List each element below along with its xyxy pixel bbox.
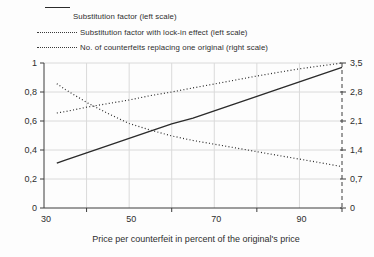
right-axis-tick-label: 0,7 [350, 174, 363, 184]
axes [40, 63, 346, 212]
left-axis-tick-label: 0 [32, 203, 37, 213]
left-axis-tick-label: 0,6 [24, 116, 37, 126]
x-axis-tick-label: 50 [126, 214, 136, 224]
axis-labels: 10,80,60,40,203,52,82,11,40,7030507090Pr… [24, 58, 362, 244]
chart: Substitution factor (left scale) Substit… [0, 0, 374, 257]
left-axis-tick-label: 0,4 [24, 145, 37, 155]
gridlines [44, 63, 342, 208]
left-axis-tick-label: 0,8 [24, 87, 37, 97]
right-axis-tick-label: 1,4 [350, 145, 363, 155]
x-axis-tick-label: 30 [41, 214, 51, 224]
x-axis-title: Price per counterfeit in percent of the … [92, 234, 299, 244]
right-axis-tick-label: 0 [350, 203, 355, 213]
right-axis-tick-label: 3,5 [350, 58, 363, 68]
x-axis-tick-label: 90 [296, 214, 306, 224]
plot-area: 10,80,60,40,203,52,82,11,40,7030507090Pr… [0, 0, 374, 257]
right-axis-tick-label: 2,1 [350, 116, 363, 126]
left-axis-tick-label: 0,2 [24, 174, 37, 184]
right-axis-tick-label: 2,8 [350, 87, 363, 97]
left-axis-tick-label: 1 [32, 58, 37, 68]
x-axis-tick-label: 70 [211, 214, 221, 224]
